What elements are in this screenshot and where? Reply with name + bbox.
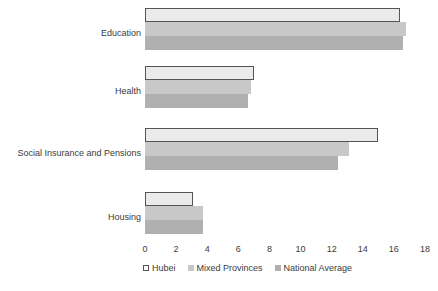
legend-swatch-icon bbox=[143, 265, 149, 271]
x-axis-tick-16: 16 bbox=[389, 243, 399, 255]
legend-item-hubei: Hubei bbox=[143, 262, 176, 274]
legend-item-national-average: National Average bbox=[275, 262, 352, 274]
chart-legend: Hubei Mixed Provinces National Average bbox=[143, 262, 352, 274]
category-label-housing: Housing bbox=[0, 212, 141, 223]
bar-housing-hubei bbox=[145, 192, 193, 206]
bar-housing-mixed bbox=[145, 206, 203, 220]
bar-group-social-insurance-and-pensions bbox=[145, 128, 425, 172]
bar-chart: Education Health Social Insurance and Pe… bbox=[0, 0, 438, 291]
bar-social-insurance-and-pensions-mixed bbox=[145, 142, 349, 156]
bar-health-mixed bbox=[145, 80, 251, 94]
bar-group-health bbox=[145, 66, 425, 110]
bar-group-education bbox=[145, 8, 425, 52]
category-label-text: Health bbox=[115, 86, 141, 96]
legend-label: Mixed Provinces bbox=[197, 262, 263, 274]
bar-housing-national bbox=[145, 220, 203, 234]
x-axis-tick-12: 12 bbox=[327, 243, 337, 255]
x-axis-tick-18: 18 bbox=[420, 243, 430, 255]
category-label-health: Health bbox=[0, 86, 141, 97]
category-label-text: Education bbox=[101, 28, 141, 38]
bar-social-insurance-and-pensions-national bbox=[145, 156, 338, 170]
x-axis-tick-2: 2 bbox=[174, 243, 179, 255]
category-label-text: Housing bbox=[108, 212, 141, 222]
x-axis-tick-8: 8 bbox=[267, 243, 272, 255]
x-axis-tick-6: 6 bbox=[236, 243, 241, 255]
bar-education-mixed bbox=[145, 22, 406, 36]
legend-swatch-icon bbox=[188, 265, 194, 271]
x-axis-tick-0: 0 bbox=[142, 243, 147, 255]
legend-label: Hubei bbox=[152, 262, 176, 274]
x-axis-tick-4: 4 bbox=[205, 243, 210, 255]
bar-social-insurance-and-pensions-hubei bbox=[145, 128, 378, 142]
category-label-text: Social Insurance and Pensions bbox=[17, 148, 141, 158]
plot-area bbox=[145, 0, 425, 238]
bar-education-national bbox=[145, 36, 403, 50]
bar-group-housing bbox=[145, 192, 425, 236]
x-axis-tick-10: 10 bbox=[296, 243, 306, 255]
bar-health-hubei bbox=[145, 66, 254, 80]
bar-health-national bbox=[145, 94, 248, 108]
legend-item-mixed-provinces: Mixed Provinces bbox=[188, 262, 263, 274]
legend-label: National Average bbox=[284, 262, 352, 274]
legend-swatch-icon bbox=[275, 265, 281, 271]
category-label-education: Education bbox=[0, 28, 141, 39]
x-axis: 024681012141618 bbox=[145, 243, 425, 257]
x-axis-tick-14: 14 bbox=[358, 243, 368, 255]
category-label-social-insurance-and-pensions: Social Insurance and Pensions bbox=[0, 148, 141, 159]
bar-education-hubei bbox=[145, 8, 400, 22]
